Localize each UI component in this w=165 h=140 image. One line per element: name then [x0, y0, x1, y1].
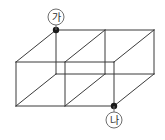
figure-background [0, 0, 165, 140]
cube-wireframe-svg: 가나 [0, 0, 165, 140]
label-na-text: 나 [110, 115, 119, 126]
label-ga-text: 가 [52, 12, 61, 23]
cube-figure-container: 가나 [0, 0, 165, 140]
